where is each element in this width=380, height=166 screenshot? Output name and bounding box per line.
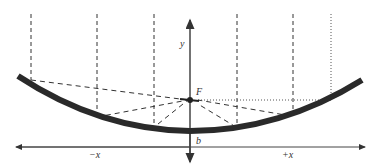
parabola-diagram: y F b −x +x bbox=[0, 0, 380, 166]
focus-point bbox=[180, 97, 199, 103]
incoming-rays bbox=[31, 14, 293, 128]
vertex-label: b bbox=[196, 135, 201, 146]
pos-x-label: +x bbox=[282, 149, 294, 160]
y-axis-label: y bbox=[179, 38, 185, 49]
focus-label: F bbox=[195, 86, 203, 97]
neg-x-label: −x bbox=[89, 149, 101, 160]
